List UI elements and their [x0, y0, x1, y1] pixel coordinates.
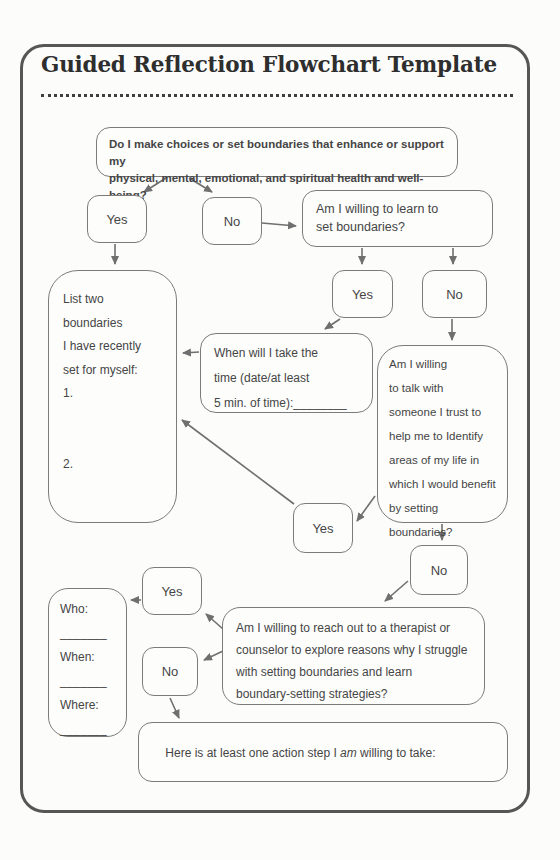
text-line: List two boundaries [63, 288, 162, 335]
text-line: counselor to explore reasons why I strug… [236, 639, 471, 661]
action-step-text-suffix: willing to take: [357, 746, 436, 760]
node-no-4: No [142, 647, 198, 696]
action-step-text-emphasis: am [340, 746, 357, 760]
text-line: set boundaries? [316, 218, 479, 236]
text-line: 1. [63, 382, 162, 406]
text-line: someone I trust to [389, 400, 496, 424]
yes-label: Yes [312, 521, 333, 536]
node-no-1: No [202, 197, 262, 245]
no-label: No [224, 214, 241, 229]
node-main-question: Do I make choices or set boundaries that… [96, 127, 458, 177]
text-line: help me to Identify [389, 424, 496, 448]
node-willing-to-learn-question: Am I willing to learn to set boundaries? [302, 190, 493, 247]
node-list-two-boundaries: List two boundaries I have recently set … [48, 270, 177, 523]
text-line: _______ [60, 669, 115, 693]
node-willing-to-talk-question: Am I willing to talk with someone I trus… [377, 345, 508, 523]
no-label: No [162, 664, 179, 679]
title-dotted-underline [41, 86, 513, 97]
node-who-when-where: Who: _______ When: _______ Where: ______… [48, 588, 127, 737]
text-line: boundary-setting strategies? [236, 683, 471, 705]
yes-label: Yes [106, 212, 127, 227]
text-line: Am I willing to learn to [316, 200, 479, 218]
text-line: I have recently [63, 335, 162, 359]
text-line: Who: [60, 597, 115, 621]
text-line [63, 406, 162, 430]
text-line: to talk with [389, 376, 496, 400]
node-no-2: No [422, 270, 487, 318]
flowchart-page: Guided Reflection Flowchart Template Do … [0, 0, 560, 860]
node-when-will-i-take-time: When will I take the time (date/at least… [200, 333, 373, 413]
text-line: _______ [60, 717, 115, 741]
text-line: set for myself: [63, 359, 162, 383]
no-label: No [431, 563, 448, 578]
text-line: Where: [60, 693, 115, 717]
action-step-text-prefix: Here is at least one action step I [165, 746, 340, 760]
node-yes-2: Yes [332, 270, 393, 318]
text-line: by setting boundaries? [389, 496, 496, 544]
node-yes-1: Yes [87, 195, 147, 243]
node-therapist-question: Am I willing to reach out to a therapist… [222, 607, 485, 705]
text-line: areas of my life in [389, 448, 496, 472]
text-line: When: [60, 645, 115, 669]
node-yes-4: Yes [142, 567, 202, 615]
text-line [63, 429, 162, 453]
node-no-3: No [410, 545, 468, 595]
text-line: time (date/at least [214, 366, 359, 391]
node-yes-3: Yes [293, 503, 353, 553]
text-line: Am I willing to reach out to a therapist… [236, 617, 471, 639]
yes-label: Yes [161, 584, 182, 599]
page-title: Guided Reflection Flowchart Template [41, 52, 497, 77]
text-line: When will I take the [214, 341, 359, 366]
text-line: Am I willing [389, 352, 496, 376]
text-line: 2. [63, 453, 162, 477]
yes-label: Yes [352, 287, 373, 302]
text-line: which I would benefit [389, 472, 496, 496]
text-line: Do I make choices or set boundaries that… [109, 136, 445, 170]
no-label: No [446, 287, 463, 302]
text-line: 5 min. of time):________ [214, 391, 359, 416]
text-line: _______ [60, 621, 115, 645]
text-line: with setting boundaries and learn [236, 661, 471, 683]
node-action-step: Here is at least one action step I am wi… [138, 722, 508, 782]
